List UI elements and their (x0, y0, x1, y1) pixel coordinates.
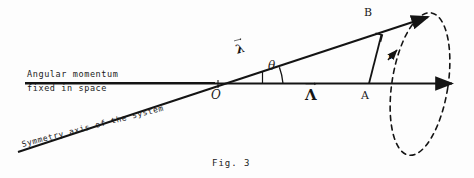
figure-caption: Fig. 3 (212, 158, 251, 168)
vector-lambda-main-glyph: Λ (305, 86, 317, 104)
vector-lambda-main-label: Λ (305, 86, 317, 104)
segment-a-b (369, 35, 382, 84)
theta-angle-arc (279, 67, 283, 83)
point-a-label: A (361, 90, 369, 103)
angular-momentum-label-line2: fixed in space (27, 84, 107, 94)
vector-r-label: r (388, 50, 393, 61)
vector-r-glyph: r (388, 50, 393, 61)
vector-arrow-icon (305, 81, 317, 86)
point-o-label: O (211, 89, 221, 103)
angular-momentum-label-line1: Angular momentum (27, 70, 118, 80)
theta-angle-label: θ (268, 60, 275, 74)
point-b-label: B (364, 7, 372, 20)
figure-3-diagram: Angular momentum fixed in space Symmetry… (0, 0, 474, 178)
